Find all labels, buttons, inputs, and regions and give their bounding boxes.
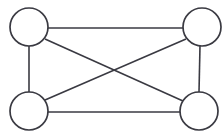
node-circle-bottom-right[interactable] <box>180 92 218 130</box>
node-circle-top-left[interactable] <box>10 8 48 46</box>
node-circle-top-right[interactable] <box>183 8 221 46</box>
graph-node-bottom-left[interactable] <box>10 92 48 130</box>
edges-group <box>29 28 200 112</box>
node-circle-bottom-left[interactable] <box>10 92 48 130</box>
graph-node-bottom-right[interactable] <box>180 92 218 130</box>
graph-node-top-right[interactable] <box>183 8 221 46</box>
diagram-canvas <box>0 0 223 137</box>
edge-right <box>199 46 200 92</box>
graph-svg <box>0 0 223 137</box>
graph-node-top-left[interactable] <box>10 8 48 46</box>
